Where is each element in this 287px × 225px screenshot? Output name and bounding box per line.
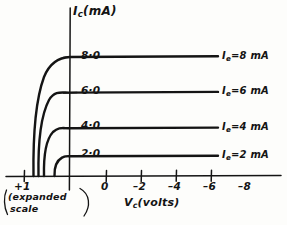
series-label-ie-2ma: Ie=2 mA (222, 149, 269, 162)
series-label-ie-4ma: Ie=4 mA (222, 121, 269, 134)
y-axis-title: Ic(mA) (73, 4, 117, 19)
series-value: =4 mA (231, 121, 269, 132)
y-tick-label-6: 6·0 (81, 84, 100, 96)
x-tick-label-minus2: –2 (133, 180, 146, 192)
expanded-scale-note-line1: (expanded (8, 192, 67, 202)
curve-ie-6ma (38, 92, 218, 176)
expanded-scale-bracket-right (80, 189, 89, 217)
x-tick-label-minus6: –6 (203, 180, 216, 192)
curve-ie-2ma (54, 156, 218, 176)
x-axis-symbol: V (124, 196, 133, 209)
x-axis-title: Vc(volts) (124, 196, 179, 210)
transistor-output-characteristics-figure: Ic(mA) 8·0 6·0 4·0 2·0 +1 0 –2 –4 –6 –8 … (0, 0, 287, 225)
series-value: =6 mA (231, 85, 269, 96)
characteristic-curves (33, 56, 218, 176)
x-axis-line (6, 176, 281, 177)
series-label-ie-6ma: Ie=6 mA (222, 85, 269, 98)
series-value: =2 mA (231, 149, 269, 160)
series-value: =8 mA (231, 50, 269, 61)
y-axis-line (69, 8, 70, 190)
y-tick-label-4: 4·0 (81, 119, 100, 131)
x-tick-label-0: 0 (101, 180, 109, 192)
x-tick-label-minus8: –8 (238, 180, 251, 192)
x-axis-unit: (volts) (138, 196, 180, 209)
y-tick-label-2: 2·0 (81, 147, 100, 159)
y-tick-label-8: 8·0 (81, 49, 100, 61)
x-tick-label-minus4: –4 (168, 180, 181, 192)
expanded-scale-note-line2: scale (10, 204, 38, 214)
y-axis-unit: (mA) (83, 4, 117, 18)
series-label-ie-8ma: Ie=8 mA (222, 50, 269, 63)
